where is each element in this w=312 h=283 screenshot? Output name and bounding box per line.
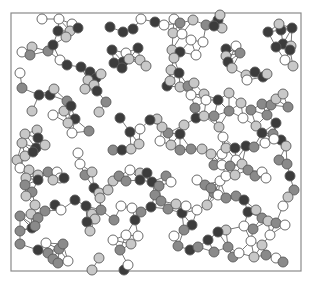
graph-node [28, 147, 38, 157]
graph-node [128, 24, 138, 34]
graph-node [155, 136, 165, 146]
graph-node [34, 90, 44, 100]
graph-node [105, 22, 115, 32]
graph-node [117, 63, 127, 73]
graph-node [96, 205, 106, 215]
graph-node [20, 129, 30, 139]
graph-node [96, 69, 106, 79]
graph-node [146, 202, 156, 212]
graph-node [94, 253, 104, 263]
graph-node [150, 17, 160, 27]
graph-node [278, 257, 288, 267]
graph-node [154, 181, 164, 191]
graph-node [242, 75, 252, 85]
graph-node [271, 42, 281, 52]
graph-node [213, 227, 223, 237]
graph-node [58, 239, 68, 249]
graph-node [59, 173, 69, 183]
graph-node [142, 168, 152, 178]
graph-node [269, 134, 279, 144]
graph-node [125, 127, 135, 137]
graph-node [261, 173, 271, 183]
graph-node [198, 37, 208, 47]
graph-node [230, 143, 240, 153]
graph-node [118, 27, 128, 37]
graph-node [126, 239, 136, 249]
graph-node [121, 176, 131, 186]
graph-node [15, 239, 25, 249]
graph-node [115, 245, 125, 255]
graph-node [48, 175, 58, 185]
graph-node [133, 231, 143, 241]
graph-node [156, 196, 166, 206]
graph-node [123, 260, 133, 270]
graph-node [260, 138, 270, 148]
graph-node [30, 221, 40, 231]
graph-node [285, 171, 295, 181]
graph-node [190, 103, 200, 113]
graph-node [127, 203, 137, 213]
graph-node [62, 60, 72, 70]
graph-node [15, 68, 25, 78]
graph-node [186, 144, 196, 154]
graph-node [41, 238, 51, 248]
graph-node [115, 113, 125, 123]
graph-node [262, 110, 272, 120]
graph-node [70, 195, 80, 205]
graph-node [257, 128, 267, 138]
graph-node [87, 265, 97, 275]
graph-node [25, 50, 35, 60]
graph-node [239, 221, 249, 231]
graph-node [53, 258, 63, 268]
graph-node [92, 86, 102, 96]
graph-node [249, 252, 259, 262]
graph-node [108, 145, 118, 155]
graph-node [181, 201, 191, 211]
graph-node [63, 118, 73, 128]
graph-node [221, 193, 231, 203]
graph-node [186, 35, 196, 45]
graph-node [234, 248, 244, 258]
graph-node [159, 20, 169, 30]
graph-node [209, 111, 219, 121]
graph-node [17, 138, 27, 148]
graph-node [206, 149, 216, 159]
graph-node [171, 199, 181, 209]
graph-node [218, 132, 228, 142]
graph-node [186, 90, 196, 100]
graph-node [48, 40, 58, 50]
graph-node [221, 143, 231, 153]
graph-node [76, 62, 86, 72]
graph-node [179, 225, 189, 235]
graph-node [224, 88, 234, 98]
graph-node [54, 14, 64, 24]
graph-node [136, 207, 146, 217]
graph-node [282, 159, 292, 169]
graph-node [61, 32, 71, 42]
graph-node [141, 61, 151, 71]
graph-node [136, 14, 146, 24]
graph-node [239, 195, 249, 205]
graph-node [271, 218, 281, 228]
graph-node [262, 69, 272, 79]
graph-node [48, 110, 58, 120]
graph-node [87, 167, 97, 177]
graph-node [280, 220, 290, 230]
graph-node [257, 99, 267, 109]
graph-node [166, 177, 176, 187]
graph-node [246, 105, 256, 115]
graph-node [109, 215, 119, 225]
graph-node [257, 240, 267, 250]
graph-node [67, 128, 77, 138]
graph-node [191, 50, 201, 60]
graph-node [249, 142, 259, 152]
graph-node [168, 28, 178, 38]
graph-node [33, 175, 43, 185]
graph-node [197, 144, 207, 154]
graph-node [265, 230, 275, 240]
graph-node [281, 141, 291, 151]
graph-node [166, 140, 176, 150]
graph-node [107, 45, 117, 55]
graph-node [75, 159, 85, 169]
graph-node [15, 211, 25, 221]
